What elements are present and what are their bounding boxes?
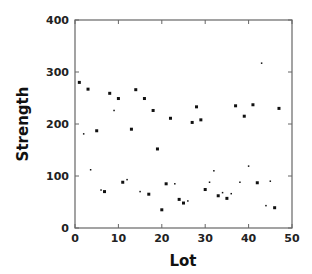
data-point	[273, 206, 276, 209]
data-point	[225, 197, 228, 200]
y-axis-label: Strength	[14, 87, 32, 162]
data-point	[83, 133, 85, 135]
data-point	[230, 193, 232, 195]
y-tick-labels: 0100200300400	[46, 14, 69, 235]
data-point	[113, 110, 115, 112]
data-point	[139, 191, 141, 193]
data-point	[160, 208, 163, 211]
data-point	[174, 183, 176, 185]
data-point	[270, 180, 272, 182]
data-point	[248, 165, 250, 167]
data-point	[152, 109, 155, 112]
x-tick-label: 10	[111, 232, 127, 245]
data-point	[130, 128, 133, 131]
x-tick-label: 50	[284, 232, 300, 245]
data-point	[239, 181, 241, 183]
data-point	[256, 181, 259, 184]
data-point	[243, 115, 246, 118]
data-point	[195, 105, 198, 108]
data-point	[261, 62, 263, 64]
data-point	[277, 107, 280, 110]
data-point	[134, 88, 137, 91]
data-point	[90, 169, 92, 171]
data-point	[251, 103, 254, 106]
data-point	[222, 192, 224, 194]
data-point	[217, 194, 220, 197]
data-point	[169, 117, 172, 120]
data-point	[156, 147, 159, 150]
data-point	[108, 92, 111, 95]
data-point	[178, 198, 181, 201]
data-point	[187, 200, 189, 202]
data-point	[143, 97, 146, 100]
x-tick-label: 30	[198, 232, 214, 245]
data-point	[191, 121, 194, 124]
y-tick-label: 400	[46, 14, 69, 27]
x-tick-label: 0	[71, 232, 79, 245]
data-point	[126, 179, 128, 181]
data-point	[78, 81, 81, 84]
data-point	[87, 88, 90, 91]
x-tick-label: 40	[241, 232, 257, 245]
scatter-chart: 0100200300400 01020304050 Lot Strength	[0, 0, 312, 274]
y-tick-label: 300	[46, 66, 69, 79]
data-point	[265, 205, 267, 207]
y-tick-label: 100	[46, 170, 69, 183]
data-point	[209, 181, 211, 183]
y-tick-label: 200	[46, 118, 69, 131]
data-point	[182, 202, 185, 205]
data-point	[95, 129, 98, 132]
data-point	[199, 118, 202, 121]
data-point	[100, 189, 102, 191]
data-points	[78, 62, 281, 211]
x-tick-labels: 01020304050	[71, 232, 300, 245]
data-point	[234, 104, 237, 107]
data-point	[213, 170, 215, 172]
data-point	[147, 193, 150, 196]
y-tick-label: 0	[61, 222, 69, 235]
x-axis-label: Lot	[169, 252, 196, 270]
data-point	[121, 181, 124, 184]
axis-ticks	[75, 20, 292, 228]
data-point	[117, 97, 120, 100]
plot-frame	[75, 20, 292, 228]
data-point	[165, 182, 168, 185]
x-tick-label: 20	[154, 232, 170, 245]
data-point	[103, 190, 106, 193]
data-point	[204, 188, 207, 191]
